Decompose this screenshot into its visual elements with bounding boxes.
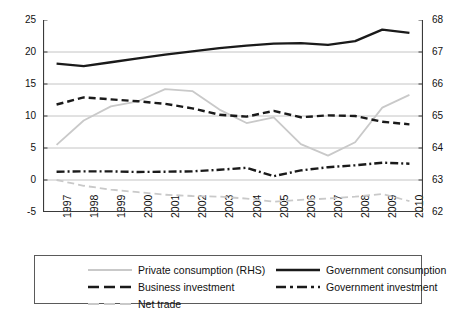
chart-legend: Private consumption (RHS)Government cons…: [34, 255, 422, 304]
y-tick-right: 63: [432, 175, 455, 185]
y-tick-left: 10: [10, 111, 36, 121]
y-tick-right: 65: [432, 111, 455, 121]
legend-item[interactable]: Net trade: [87, 297, 181, 311]
y-tick-left: -5: [10, 207, 36, 217]
series-line-business-investment: [57, 97, 410, 124]
y-tick-left: 20: [10, 47, 36, 57]
plot-area: [43, 20, 423, 212]
legend-item[interactable]: Private consumption (RHS): [87, 263, 265, 277]
chart-figure: -50510152025 62636465666768 199719981999…: [0, 0, 455, 315]
y-tick-left: 5: [10, 143, 36, 153]
legend-key-swatch: [87, 281, 133, 293]
legend-item[interactable]: Business investment: [87, 280, 234, 294]
legend-key-swatch: [87, 298, 133, 310]
chart-canvas: [43, 20, 423, 212]
legend-key-swatch: [275, 264, 321, 276]
y-tick-right: 66: [432, 79, 455, 89]
series-line-net-trade: [57, 180, 410, 202]
series-line-government-investment: [57, 163, 410, 176]
legend-label: Business investment: [138, 281, 234, 293]
legend-item[interactable]: Government consumption: [275, 263, 446, 277]
legend-label: Private consumption (RHS): [138, 264, 265, 276]
y-tick-right: 64: [432, 143, 455, 153]
y-tick-left: 25: [10, 15, 36, 25]
y-tick-right: 68: [432, 15, 455, 25]
y-tick-left: 15: [10, 79, 36, 89]
legend-item[interactable]: Government investment: [275, 280, 437, 294]
legend-label: Government investment: [326, 281, 437, 293]
legend-key-swatch: [275, 281, 321, 293]
legend-label: Net trade: [138, 298, 181, 310]
series-line-government-consumption: [57, 30, 410, 66]
y-tick-right: 62: [432, 207, 455, 217]
series-line-private-consumption-rhs: [57, 89, 410, 156]
legend-key-swatch: [87, 264, 133, 276]
y-tick-right: 67: [432, 47, 455, 57]
legend-label: Government consumption: [326, 264, 446, 276]
y-tick-left: 0: [10, 175, 36, 185]
